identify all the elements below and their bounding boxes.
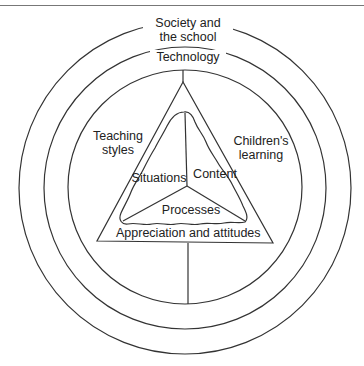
- left-label-line1: Teaching: [88, 129, 148, 143]
- middle-ring-technology: [44, 47, 326, 329]
- triangle-base-label: Appreciation and attitudes: [116, 226, 256, 240]
- content-label: Content: [190, 167, 240, 181]
- inner-ring-left-label: Teaching styles: [88, 129, 148, 157]
- right-label-line1: Children's: [226, 134, 296, 148]
- outer-ring-label-line1: Society and: [146, 16, 230, 30]
- left-label-line2: styles: [88, 143, 148, 157]
- middle-ring-label: Technology: [150, 50, 226, 64]
- right-label-line2: learning: [226, 148, 296, 162]
- processes-label: Processes: [160, 203, 222, 217]
- outer-ring-label-line2: the school: [146, 30, 230, 44]
- inner-ring-right-label: Children's learning: [226, 134, 296, 162]
- outer-ring-label: Society and the school: [143, 16, 233, 44]
- situations-label: Situations: [131, 171, 187, 185]
